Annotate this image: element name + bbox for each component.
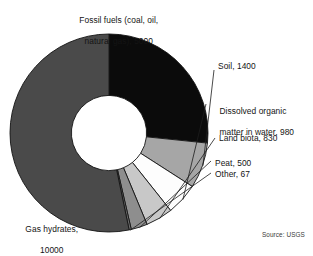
slice-label-soil: Soil, 1400 [218,61,256,72]
slice-label-gas-hydrates-line1: Gas hydrates, [25,224,78,234]
slice-label-fossil-fuels-line2: natural gas), 5000 [85,36,153,46]
slice-label-gas-hydrates-line2: 10000 [40,245,64,255]
slice-label-gas-hydrates: Gas hydrates, 10000 [4,213,90,256]
slice-label-peat: Peat, 500 [215,158,251,169]
slice-label-dissolved-line1: Dissolved organic [220,106,287,116]
source-note: Source: USGS [262,231,305,239]
pie-slice-group [10,34,208,232]
pie-chart-figure: Fossil fuels (coal, oil, natural gas), 5… [0,0,313,256]
slice-label-land-biota: Land biota, 830 [219,133,278,144]
slice-label-fossil-fuels-line1: Fossil fuels (coal, oil, [79,15,158,25]
slice-label-fossil-fuels: Fossil fuels (coal, oil, natural gas), 5… [38,4,190,57]
slice-label-other: Other, 67 [215,169,250,180]
